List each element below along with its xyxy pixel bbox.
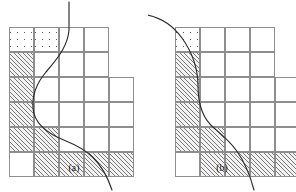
grid-cell-white bbox=[200, 102, 225, 127]
grid-cell-white bbox=[59, 27, 84, 52]
grid-cell-white bbox=[250, 127, 275, 152]
grid-cell-hatch bbox=[9, 127, 34, 152]
grid-cell-hatch bbox=[9, 77, 34, 102]
grid-cell-white bbox=[225, 77, 250, 102]
grid-cell-white bbox=[59, 77, 84, 102]
grid-cell-white bbox=[250, 102, 275, 127]
panel-a: (a) bbox=[0, 0, 148, 192]
grid-cell-white bbox=[84, 102, 109, 127]
grid-cell-white bbox=[225, 102, 250, 127]
grid-cell-hatch bbox=[9, 52, 34, 77]
grid-cell-white bbox=[34, 77, 59, 102]
grid-cell-white bbox=[34, 52, 59, 77]
grid-cell-hatch bbox=[200, 127, 225, 152]
figure-sheet: (a) (b) bbox=[0, 0, 296, 192]
grid-cell-stipple bbox=[175, 27, 200, 52]
grid-cell-stipple bbox=[9, 27, 34, 52]
grid-cell-white bbox=[84, 77, 109, 102]
grid-cell-hatch bbox=[175, 52, 200, 77]
grid-cell-white bbox=[225, 127, 250, 152]
grid-cell-white bbox=[200, 27, 225, 52]
grid-cell-white bbox=[84, 127, 109, 152]
grid-cell-white bbox=[250, 52, 275, 77]
grid-cell-white bbox=[225, 52, 250, 77]
grid-cell-white bbox=[109, 77, 134, 102]
grid-cell-white bbox=[109, 127, 134, 152]
grid-cell-white bbox=[84, 27, 109, 52]
grid-cell-white bbox=[250, 27, 275, 52]
grid-cell-white bbox=[275, 77, 296, 102]
grid-cell-white bbox=[200, 52, 225, 77]
grid-cell-hatch bbox=[9, 102, 34, 127]
grid-cell-hatch bbox=[175, 77, 200, 102]
grid-cell-hatch bbox=[34, 127, 59, 152]
panel-a-caption: (a) bbox=[0, 163, 148, 173]
grid-cell-white bbox=[275, 102, 296, 127]
panel-b: (b) bbox=[148, 0, 296, 192]
grid-cell-white bbox=[109, 102, 134, 127]
grid-cell-hatch bbox=[175, 102, 200, 127]
grid-cell-white bbox=[275, 127, 296, 152]
grid-cell-white bbox=[225, 27, 250, 52]
grid-cell-hatch bbox=[175, 127, 200, 152]
panel-b-caption: (b) bbox=[148, 163, 296, 173]
grid-cell-white bbox=[59, 52, 84, 77]
grid-cell-white bbox=[84, 52, 109, 77]
grid-cell-white bbox=[59, 127, 84, 152]
grid-cell-white bbox=[200, 77, 225, 102]
grid-cell-white bbox=[59, 102, 84, 127]
grid-cell-white bbox=[34, 102, 59, 127]
grid-cell-white bbox=[250, 77, 275, 102]
grid-cell-stipple bbox=[34, 27, 59, 52]
